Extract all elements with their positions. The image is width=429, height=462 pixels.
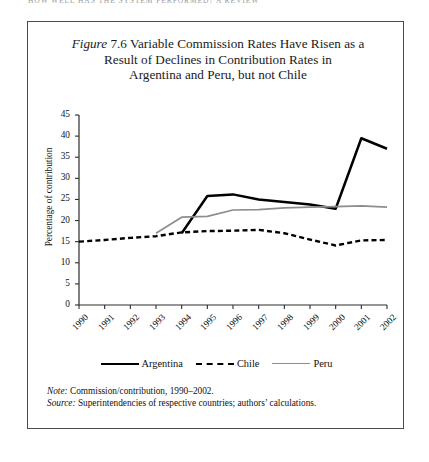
- series-line-chile: [79, 230, 387, 246]
- y-tick-label: 10: [46, 257, 70, 267]
- y-tick-label: 25: [46, 193, 70, 203]
- legend-line-chile-icon: [196, 363, 234, 365]
- legend-item-peru: Peru: [272, 358, 332, 369]
- source-lead: Source:: [47, 398, 76, 408]
- y-tick-label: 30: [46, 172, 70, 182]
- figure-notes: Note: Commission/contribution, 1990–2002…: [47, 386, 397, 409]
- page-running-header: HOW WELL HAS THE SYSTEM PERFORMED? A REV…: [28, 0, 408, 9]
- figure-source-line: Source: Superintendencies of respective …: [47, 398, 397, 410]
- running-header-text: HOW WELL HAS THE SYSTEM PERFORMED? A REV…: [28, 0, 259, 5]
- chart-series-group: [79, 138, 387, 245]
- y-tick-label: 5: [46, 278, 70, 288]
- note-lead: Note:: [47, 386, 68, 396]
- source-text: Superintendencies of respective countrie…: [78, 398, 316, 408]
- y-tick-label: 40: [46, 130, 70, 140]
- y-tick-label: 45: [46, 109, 70, 119]
- note-text: Commission/contribution, 1990–2002.: [70, 386, 214, 396]
- y-tick-label: 15: [46, 236, 70, 246]
- y-tick-label: 35: [46, 151, 70, 161]
- legend-label-chile: Chile: [237, 358, 260, 369]
- figure-container: Figure 7.6 Variable Commission Rates Hav…: [27, 21, 404, 429]
- legend-item-argentina: Argentina: [101, 358, 183, 369]
- legend-item-chile: Chile: [196, 358, 260, 369]
- legend-line-peru-icon: [272, 363, 310, 364]
- series-line-argentina: [182, 138, 387, 233]
- figure-note-line: Note: Commission/contribution, 1990–2002…: [47, 386, 397, 398]
- y-tick-label: 0: [46, 299, 70, 309]
- legend-label-peru: Peru: [313, 358, 332, 369]
- y-tick-label: 20: [46, 215, 70, 225]
- chart-legend: Argentina Chile Peru: [28, 358, 405, 369]
- legend-label-argentina: Argentina: [142, 358, 183, 369]
- legend-line-argentina-icon: [101, 363, 139, 365]
